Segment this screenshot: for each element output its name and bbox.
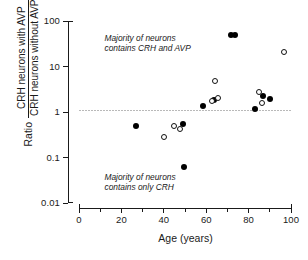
annotation-majority-crh-and-avp: Majority of neurons contains CRH and AVP (104, 33, 190, 53)
x-tick (79, 209, 80, 213)
data-point-filled (252, 106, 258, 112)
y-axis-title: Ratio CRH neurons with AVP CRH neurons w… (6, 0, 50, 177)
x-minor-tick (142, 209, 143, 212)
x-tick-label: 40 (149, 215, 179, 225)
y-tick (63, 21, 68, 22)
y-axis-top-cap (68, 21, 73, 22)
data-point-filled (200, 103, 206, 109)
x-axis-title: Age (years) (79, 232, 292, 244)
reference-line-ratio-one (79, 110, 291, 111)
y-tick (63, 157, 68, 158)
data-point-filled (267, 96, 273, 102)
data-point-filled (232, 32, 238, 38)
y-axis-title-ratio-word: Ratio (22, 122, 34, 147)
x-tick (163, 209, 164, 213)
x-tick-label: 60 (191, 215, 221, 225)
y-axis-bottom-cap (68, 202, 73, 203)
annotation-majority-only-crh: Majority of neurons contains only CRH (104, 172, 175, 192)
x-minor-tick (185, 209, 186, 212)
x-minor-tick (269, 209, 270, 212)
x-tick-label: 80 (234, 215, 264, 225)
x-minor-tick (100, 209, 101, 212)
data-point-open (259, 100, 265, 106)
x-tick-label: 0 (64, 215, 94, 225)
y-tick (63, 112, 68, 113)
y-tick (63, 66, 68, 67)
data-point-open (215, 95, 221, 101)
x-tick (248, 209, 249, 213)
data-point-filled (133, 123, 139, 129)
figure-scatter-crh-avp-ratio-vs-age: 0.010.1110100 020406080100 Majority of n… (0, 0, 308, 260)
y-tick (63, 203, 68, 204)
x-minor-tick (227, 209, 228, 212)
y-axis-spine (68, 21, 69, 203)
data-point-open (161, 134, 167, 140)
x-tick-label: 100 (276, 215, 306, 225)
x-tick (291, 209, 292, 213)
data-point-open (209, 98, 215, 104)
y-axis-title-numerator: CRH neurons with AVP (16, 4, 28, 111)
data-point-open (177, 126, 183, 132)
x-tick (206, 209, 207, 213)
y-tick-label: 0.01 (20, 198, 60, 208)
data-point-filled (181, 164, 187, 170)
data-point-open (212, 78, 218, 84)
x-tick (121, 209, 122, 213)
x-tick-label: 20 (106, 215, 136, 225)
y-axis-title-denominator: CRH neurons without AVP (29, 0, 41, 118)
y-axis-title-fraction: CRH neurons with AVP CRH neurons without… (16, 0, 41, 118)
data-point-open (281, 49, 287, 55)
